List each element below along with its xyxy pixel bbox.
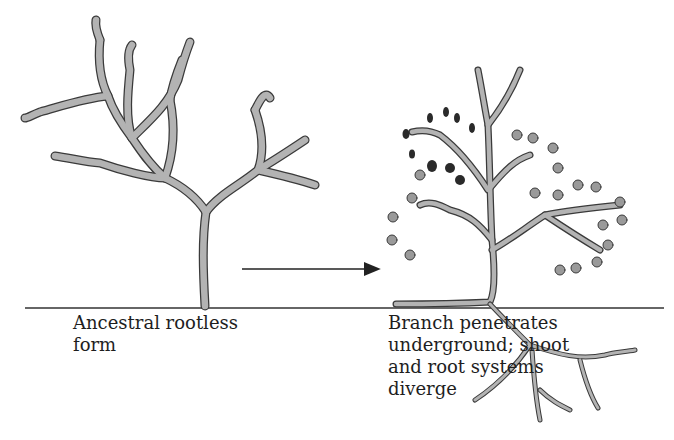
label-branch-penetrates-underground: Branch penetrates underground; shoot and… (388, 312, 569, 400)
diagram: Ancestral rootless form Branch penetrate… (0, 0, 674, 440)
ancestral-plant (25, 20, 315, 306)
derived-plant-shoot (387, 70, 627, 304)
sporangia (403, 107, 476, 185)
label-ancestral-rootless-form: Ancestral rootless form (73, 312, 238, 356)
plant-illustration (0, 0, 674, 440)
